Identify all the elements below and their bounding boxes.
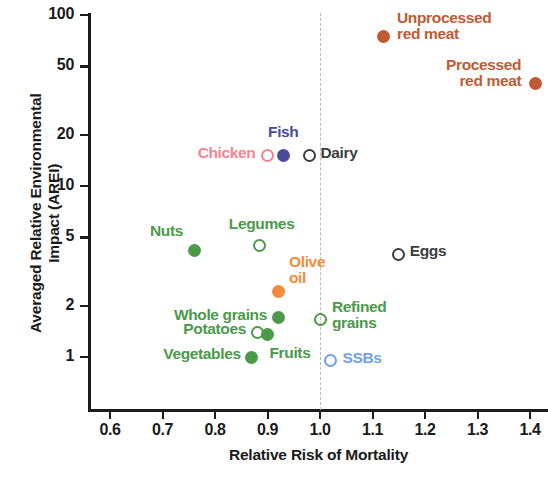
point-label-fruits: Fruits: [270, 345, 311, 361]
data-point-processed-red-meat[interactable]: [529, 77, 542, 90]
y-tick-2: [80, 305, 89, 307]
point-label-dairy: Dairy: [321, 145, 358, 161]
y-tick-label-20: 20: [8, 125, 74, 143]
data-point-fruits[interactable]: [261, 328, 274, 341]
x-axis-line: [88, 409, 548, 412]
x-tick-label-0.7: 0.7: [137, 421, 189, 439]
x-tick-1.3: [477, 410, 479, 419]
y-axis-line: [88, 13, 91, 411]
x-tick-label-1.0: 1.0: [294, 421, 346, 439]
y-tick-50: [80, 65, 89, 67]
point-label-chicken: Chicken: [198, 145, 256, 161]
y-tick-label-100: 100: [8, 5, 74, 23]
x-tick-1.2: [424, 410, 426, 419]
x-tick-label-0.9: 0.9: [242, 421, 294, 439]
point-label-unprocessed-red-meat: Unprocessed red meat: [397, 10, 491, 42]
x-tick-label-1.2: 1.2: [399, 421, 451, 439]
data-point-whole-grains[interactable]: [272, 311, 285, 324]
point-label-refined-grains: Refined grains: [332, 299, 386, 331]
x-tick-0.7: [162, 410, 164, 419]
y-tick-label-2: 2: [8, 296, 74, 314]
x-tick-1.0: [319, 410, 321, 419]
y-tick-label-1: 1: [8, 347, 74, 365]
data-point-chicken[interactable]: [261, 149, 274, 162]
y-tick-5: [80, 236, 89, 238]
data-point-refined-grains[interactable]: [314, 313, 327, 326]
point-label-processed-red-meat: Processed red meat: [446, 57, 521, 89]
scatter-chart: Averaged Relative Environmental Impact (…: [0, 0, 548, 478]
x-tick-label-0.8: 0.8: [189, 421, 241, 439]
x-axis-title: Relative Risk of Mortality: [89, 446, 548, 464]
y-tick-10: [80, 185, 89, 187]
x-tick-label-0.6: 0.6: [84, 421, 136, 439]
y-tick-label-5: 5: [8, 227, 74, 245]
x-tick-0.8: [214, 410, 216, 419]
y-tick-1: [80, 356, 89, 358]
y-tick-label-10: 10: [8, 176, 74, 194]
point-label-ssbs: SSBs: [343, 350, 382, 366]
x-tick-label-1.4: 1.4: [504, 421, 548, 439]
data-point-nuts[interactable]: [188, 244, 201, 257]
data-point-unprocessed-red-meat[interactable]: [377, 30, 390, 43]
point-label-legumes: Legumes: [172, 216, 352, 232]
x-tick-0.9: [267, 410, 269, 419]
data-point-eggs[interactable]: [392, 248, 405, 261]
point-label-eggs: Eggs: [410, 243, 447, 259]
y-tick-100: [80, 14, 89, 16]
y-tick-label-50: 50: [8, 56, 74, 74]
x-tick-0.6: [109, 410, 111, 419]
data-point-legumes[interactable]: [253, 239, 266, 252]
reference-line-x1: [320, 13, 321, 410]
point-label-fish: Fish: [193, 124, 373, 140]
x-tick-1.4: [529, 410, 531, 419]
point-label-olive-oil: Olive oil: [289, 254, 325, 286]
data-point-dairy[interactable]: [303, 149, 316, 162]
x-tick-label-1.1: 1.1: [347, 421, 399, 439]
data-point-olive-oil[interactable]: [272, 285, 285, 298]
point-label-potatoes: Potatoes: [183, 321, 246, 337]
data-point-vegetables[interactable]: [245, 351, 258, 364]
x-tick-label-1.3: 1.3: [452, 421, 504, 439]
x-tick-1.1: [372, 410, 374, 419]
data-point-fish[interactable]: [277, 149, 290, 162]
data-point-ssbs[interactable]: [324, 354, 337, 367]
y-tick-20: [80, 134, 89, 136]
point-label-vegetables: Vegetables: [163, 346, 241, 362]
